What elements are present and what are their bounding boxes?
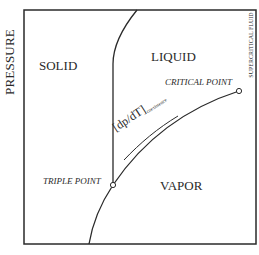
region-solid-label: SOLID xyxy=(39,58,77,74)
supercritical-fluid-label: SUPERCRITICAL FLUID xyxy=(248,5,258,85)
y-axis-label: PRESSURE xyxy=(2,22,18,102)
critical-point-marker xyxy=(236,88,241,93)
triple-point-marker xyxy=(110,182,115,187)
plot-frame xyxy=(24,10,256,244)
triple-point-label: TRIPLE POINT xyxy=(43,176,101,186)
coexistence-curve xyxy=(89,91,239,244)
region-liquid-label: LIQUID xyxy=(151,49,196,65)
region-vapor-label: VAPOR xyxy=(160,178,202,194)
phase-diagram: PRESSURE SOLID LIQUID VAPOR TRIPLE POINT… xyxy=(0,0,259,255)
critical-point-label: CRITICAL POINT xyxy=(165,77,232,87)
